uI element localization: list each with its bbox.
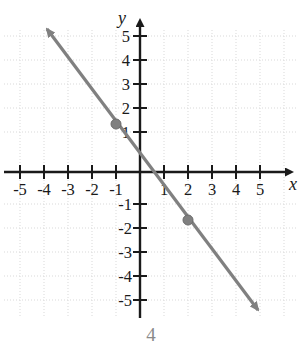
y-tick-label: -5 [118, 291, 132, 310]
x-tick-label: -2 [85, 180, 99, 199]
x-tick-label: -3 [61, 180, 75, 199]
y-tick-label: -4 [118, 267, 132, 286]
coordinate-plane: -5 -4 -3 -2 -1 1 2 3 4 5 5 4 3 2 1 -1 -2… [0, 0, 302, 355]
data-point [111, 119, 121, 129]
y-tick-labels: 5 4 3 2 1 -1 -2 -3 -4 -5 [118, 27, 132, 310]
y-tick-label: 2 [122, 99, 130, 118]
data-point [183, 215, 193, 225]
y-tick-label: 5 [122, 27, 130, 46]
x-tick-label: 4 [232, 180, 240, 199]
x-tick-label: 2 [184, 180, 192, 199]
x-tick-label: -4 [37, 180, 51, 199]
y-tick-label: -3 [118, 243, 132, 262]
x-tick-labels: -5 -4 -3 -2 -1 1 2 3 4 5 [13, 180, 264, 199]
y-axis-label: y [116, 8, 126, 28]
figure-caption: 4 [0, 324, 302, 346]
x-axis-label: x [288, 174, 297, 194]
x-tick-label: -5 [13, 180, 27, 199]
grid-lines [4, 30, 296, 318]
graph-figure: -5 -4 -3 -2 -1 1 2 3 4 5 5 4 3 2 1 -1 -2… [0, 0, 302, 355]
x-tick-label: 3 [208, 180, 216, 199]
data-line [47, 29, 258, 310]
axes [4, 26, 286, 318]
y-tick-label: -2 [118, 219, 132, 238]
y-tick-label: 4 [122, 51, 130, 70]
x-tick-label: 5 [256, 180, 264, 199]
y-tick-label: 3 [122, 75, 130, 94]
y-tick-label: -1 [118, 195, 132, 214]
